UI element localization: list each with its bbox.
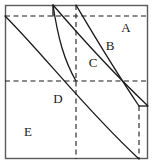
figure-canvas: A B C D E (0, 0, 153, 164)
region-label-b: B (106, 38, 115, 53)
region-label-c: C (89, 55, 98, 70)
region-label-d: D (53, 91, 62, 106)
region-label-a: A (121, 20, 131, 35)
region-label-e: E (24, 124, 32, 139)
geometry-figure: A B C D E (0, 0, 153, 164)
